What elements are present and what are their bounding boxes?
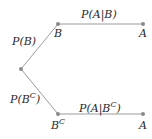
edge-root-bc-label-main: P(B [9, 93, 30, 106]
edge-root-bc-label: P(BC) [9, 91, 40, 106]
node-a-top-label: A [138, 27, 147, 40]
edge-bc-a-label-end: ) [116, 102, 121, 115]
node-a-top [141, 22, 145, 26]
node-bc-label: BC [50, 117, 65, 132]
node-b-label: B [53, 27, 62, 40]
node-b [56, 22, 60, 26]
edge-b-a-label: P(A|B) [80, 8, 117, 22]
node-bc [56, 112, 60, 116]
node-a-bottom-label: A [138, 119, 147, 132]
probability-tree-diagram: B A BC A P(B) P(A|B) P(BC) P(A|BC) [0, 0, 152, 139]
node-bc-label-main: B [50, 119, 59, 132]
node-bc-label-sup: C [59, 117, 65, 126]
edge-root-b-label: P(B) [11, 35, 36, 48]
node-a-bottom [141, 112, 145, 116]
node-root [19, 67, 23, 71]
edge-bc-a-label-main: P(A|B [78, 102, 110, 116]
edge-root-to-bc [21, 69, 58, 114]
edge-root-bc-label-end: ) [35, 93, 40, 106]
